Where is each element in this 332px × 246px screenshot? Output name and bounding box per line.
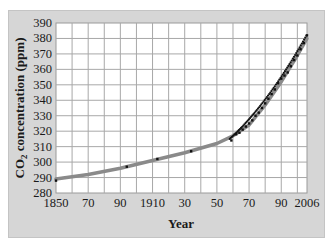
data-point (294, 54, 296, 56)
y-tick-label: 380 (33, 31, 52, 45)
y-tick-label: 290 (33, 171, 52, 185)
data-point (254, 115, 256, 117)
x-tick-label: 70 (243, 196, 256, 210)
y-tick-label: 390 (33, 16, 52, 30)
y-tick-label: 370 (33, 47, 52, 61)
plot-area (56, 23, 307, 193)
data-point (286, 71, 288, 73)
x-axis-label: Year (168, 216, 194, 231)
y-axis-ticks: 280290300310320330340350360370380390 (33, 16, 52, 200)
data-point (293, 56, 295, 58)
y-tick-label: 330 (33, 109, 52, 123)
y-tick-label: 310 (33, 140, 52, 154)
y-axis-label: CO2 concentration (ppm) (12, 38, 29, 179)
x-tick-label: 70 (82, 196, 95, 210)
data-point (241, 128, 243, 130)
data-point (295, 52, 297, 54)
data-point (296, 50, 298, 52)
data-point (264, 102, 266, 104)
y-tick-label: 360 (33, 62, 52, 76)
data-point (300, 44, 302, 46)
data-point (302, 40, 304, 42)
data-point (304, 36, 306, 38)
data-point (55, 179, 57, 181)
x-tick-label: 90 (114, 196, 127, 210)
data-point (156, 158, 158, 160)
data-point (245, 125, 247, 127)
data-point (303, 38, 305, 40)
data-point (290, 65, 292, 67)
y-tick-label: 340 (33, 93, 52, 107)
y-tick-label: 320 (33, 124, 52, 138)
x-tick-label: 30 (178, 196, 191, 210)
data-point (258, 111, 260, 113)
data-point (292, 58, 294, 60)
data-point (261, 107, 263, 109)
x-tick-label: 1850 (44, 196, 69, 210)
data-point (297, 48, 299, 50)
data-point (251, 119, 253, 121)
y-tick-label: 300 (33, 155, 52, 169)
y-tick-label: 350 (33, 78, 52, 92)
x-axis-ticks: 185070901910305070902006 (44, 196, 320, 210)
x-tick-label: 1910 (140, 196, 165, 210)
data-point (301, 42, 303, 44)
data-point (296, 54, 298, 56)
x-tick-label: 50 (211, 196, 224, 210)
data-point (291, 59, 293, 61)
x-tick-label: 90 (275, 196, 288, 210)
co2-chart: 280290300310320330340350360370380390 185… (0, 0, 332, 246)
data-point (126, 166, 128, 168)
data-point (190, 150, 192, 152)
data-point (305, 34, 307, 36)
data-point (248, 122, 250, 124)
data-point (289, 61, 291, 63)
data-point (298, 46, 300, 48)
x-tick-label: 2006 (295, 196, 320, 210)
